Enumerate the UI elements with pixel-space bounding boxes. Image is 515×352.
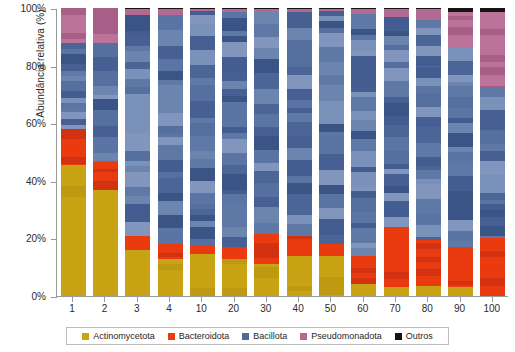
bar-segment (254, 9, 279, 13)
bar-segment (61, 165, 86, 296)
bar-column[interactable] (158, 8, 183, 296)
bar-sub-stripe (384, 217, 409, 224)
bar-sub-stripe (351, 198, 376, 212)
x-axis-tick (234, 297, 235, 302)
x-axis-tick-label: 80 (422, 303, 433, 314)
bar-sub-stripe (384, 116, 409, 126)
bar-sub-stripe (254, 284, 279, 292)
bar-sub-stripe (222, 194, 247, 204)
bar-sub-stripe (61, 54, 86, 64)
bar-sub-stripe (125, 213, 150, 222)
bar-sub-stripe (384, 68, 409, 81)
bar-sub-stripe (93, 181, 118, 189)
bar-segment (93, 43, 118, 163)
bar-sub-stripe (287, 53, 312, 67)
bar-sub-stripe (222, 227, 247, 238)
bar-sub-stripe (190, 65, 215, 79)
bar-sub-stripe (351, 172, 376, 186)
bar-sub-stripe (416, 46, 441, 56)
bar-column[interactable] (93, 8, 118, 296)
bar-sub-stripe (125, 245, 150, 250)
bar-sub-stripe (190, 78, 215, 85)
bar-sub-stripe (222, 182, 247, 191)
legend-item[interactable]: Actinomycetota (82, 331, 155, 341)
bar-sub-stripe (351, 131, 376, 138)
bar-sub-stripe (222, 50, 247, 57)
y-axis-tick-label: 80% (0, 61, 46, 72)
bar-sub-stripe (61, 8, 86, 15)
bar-sub-stripe (93, 27, 118, 34)
bar-sub-stripe (254, 243, 279, 251)
legend-swatch (242, 333, 249, 340)
bar-column[interactable] (61, 8, 86, 296)
x-axis-tick-label: 1 (69, 303, 75, 314)
bar-sub-stripe (190, 101, 215, 108)
bar-sub-stripe (222, 117, 247, 127)
bar-sub-stripe (416, 225, 441, 237)
legend-label: Actinomycetota (93, 331, 155, 341)
bar-column[interactable] (384, 8, 409, 296)
x-axis-tick-label: 10 (196, 303, 207, 314)
bar-sub-stripe (61, 39, 86, 43)
bar-segment (384, 9, 409, 17)
bar-segment (93, 189, 118, 296)
bar-sub-stripe (190, 274, 215, 284)
bar-sub-stripe (254, 251, 279, 258)
bar-sub-stripe (480, 286, 505, 295)
x-axis-tick (104, 297, 105, 302)
bar-sub-stripe (93, 236, 118, 247)
bar-sub-stripe (384, 125, 409, 136)
bar-column[interactable] (287, 8, 312, 296)
bar-sub-stripe (158, 193, 183, 200)
bar-segment (222, 247, 247, 259)
bar-sub-stripe (448, 285, 473, 287)
bar-sub-stripe (190, 15, 215, 23)
bar-sub-stripe (61, 64, 86, 71)
bar-sub-stripe (125, 79, 150, 87)
bar-sub-stripe (480, 86, 505, 97)
bar-column[interactable] (416, 8, 441, 296)
bar-sub-stripe (190, 50, 215, 65)
bar-sub-stripe (448, 191, 473, 206)
bar-sub-stripe (254, 150, 279, 163)
bar-sub-stripe (351, 212, 376, 223)
bar-column[interactable] (222, 8, 247, 296)
legend-item[interactable]: Bacillota (242, 331, 287, 341)
legend-swatch (82, 333, 89, 340)
bar-sub-stripe (125, 133, 150, 142)
bar-sub-stripe (222, 278, 247, 288)
bar-sub-stripe (384, 81, 409, 97)
bar-sub-stripe (222, 244, 247, 247)
bar-sub-stripe (158, 294, 183, 296)
bar-sub-stripe (287, 252, 312, 255)
x-axis-tick (201, 297, 202, 302)
bar-sub-stripe (384, 186, 409, 193)
bar-column[interactable] (254, 8, 279, 296)
bar-column[interactable] (351, 8, 376, 296)
bar-sub-stripe (480, 217, 505, 227)
bar-column[interactable] (125, 8, 150, 296)
bar-segment (158, 9, 183, 16)
bar-sub-stripe (319, 111, 344, 118)
bar-segment (351, 14, 376, 256)
x-axis-tick-label: 20 (228, 303, 239, 314)
legend-item[interactable]: Outros (395, 331, 433, 341)
legend-item[interactable]: Bacteroidota (168, 331, 230, 341)
bar-segment (384, 287, 409, 296)
bar-sub-stripe (125, 187, 150, 196)
bar-sub-stripe (287, 28, 312, 41)
bar-sub-stripe (93, 13, 118, 20)
bar-column[interactable] (480, 8, 505, 296)
legend-item[interactable]: Pseudomonadota (300, 331, 382, 341)
bar-column[interactable] (190, 8, 215, 296)
bar-sub-stripe (93, 189, 118, 204)
bar-sub-stripe (416, 170, 441, 178)
bars-layer (57, 9, 508, 296)
bar-sub-stripe (319, 286, 344, 295)
bar-sub-stripe (158, 103, 183, 113)
bar-column[interactable] (448, 8, 473, 296)
bar-column[interactable] (319, 8, 344, 296)
bar-sub-stripe (93, 110, 118, 125)
x-axis-tick-label: 3 (134, 303, 140, 314)
bar-sub-stripe (93, 189, 118, 190)
